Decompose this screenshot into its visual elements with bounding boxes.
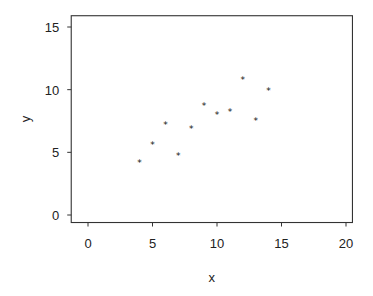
- data-point: *: [150, 140, 155, 150]
- y-axis-label: y: [18, 115, 33, 122]
- data-point: *: [253, 116, 258, 126]
- y-tick-label: 10: [45, 83, 59, 98]
- plot-frame: [71, 16, 352, 223]
- x-tick-label: 0: [84, 236, 91, 251]
- y-tick-label: 0: [52, 208, 59, 223]
- data-point: *: [266, 86, 271, 96]
- x-tick-label: 15: [274, 236, 288, 251]
- y-tick-label: 15: [45, 20, 59, 35]
- data-point: *: [176, 151, 181, 161]
- x-tick-label: 10: [210, 236, 224, 251]
- x-axis: 05101520: [84, 223, 353, 251]
- x-axis-label: x: [209, 270, 216, 285]
- data-point: *: [163, 120, 168, 130]
- data-point: *: [202, 101, 207, 111]
- data-point: *: [241, 75, 246, 85]
- data-points: ***********: [137, 75, 271, 167]
- y-axis: 051015: [45, 20, 71, 223]
- y-tick-label: 5: [52, 145, 59, 160]
- data-point: *: [189, 124, 194, 134]
- data-point: *: [228, 107, 233, 117]
- data-point: *: [215, 110, 220, 120]
- x-tick-label: 5: [149, 236, 156, 251]
- scatter-chart: 05101520 051015 *********** x y: [0, 0, 373, 296]
- data-point: *: [137, 158, 142, 168]
- x-tick-label: 20: [339, 236, 353, 251]
